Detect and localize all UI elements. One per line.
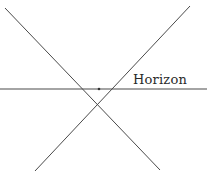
horizon-label: Horizon	[133, 72, 187, 87]
intersection-point	[98, 88, 101, 91]
horizon-diagram	[0, 0, 215, 176]
